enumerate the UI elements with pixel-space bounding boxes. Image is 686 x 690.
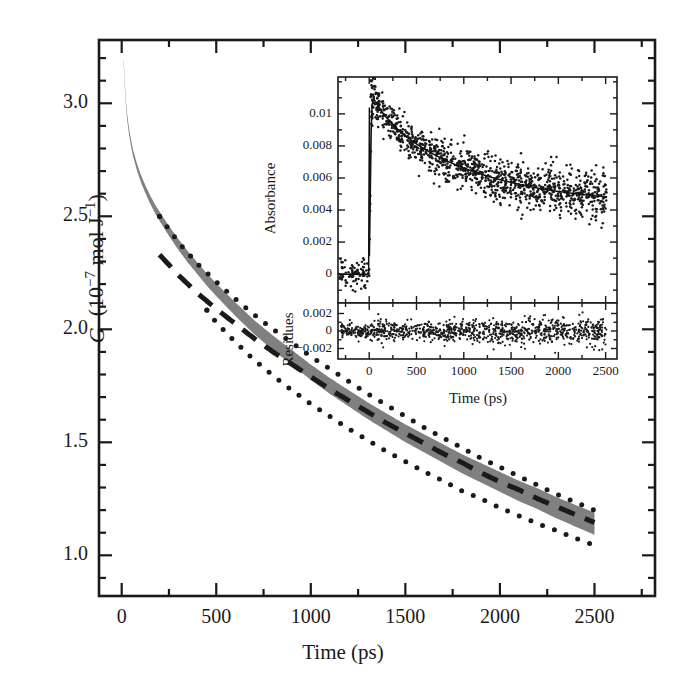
- inset-absorbance-tick-label: 0: [262, 265, 332, 281]
- main-x-tick-label: 2500: [549, 605, 639, 628]
- main-x-tick-label: 0: [77, 605, 167, 628]
- main-x-axis-label: Time (ps): [0, 640, 686, 665]
- main-x-tick-label: 500: [171, 605, 261, 628]
- inset-absorbance-tick-label: 0.01: [262, 105, 332, 121]
- main-y-tick-label: 1.5: [26, 429, 88, 452]
- inset-absorbance-tick-label: 0.008: [262, 137, 332, 153]
- inset-residues-tick-label: 0.002: [262, 305, 332, 321]
- inset-residues-tick-label: −0.002: [262, 340, 332, 356]
- inset-absorbance-tick-label: 0.002: [262, 233, 332, 249]
- main-y-tick-label: 1.0: [26, 542, 88, 565]
- main-x-tick-label: 2000: [455, 605, 545, 628]
- inset-residues-tick-label: 0: [262, 322, 332, 338]
- inset-absorbance-tick-label: 0.004: [262, 201, 332, 217]
- main-y-tick-label: 3.0: [26, 90, 88, 113]
- main-y-tick-label: 2.0: [26, 316, 88, 339]
- main-x-tick-label: 1500: [360, 605, 450, 628]
- main-y-tick-label: 2.5: [26, 203, 88, 226]
- inset-x-tick-label: 2500: [576, 363, 636, 379]
- inset-x-axis-label: Time (ps): [398, 390, 558, 407]
- figure-root: G (10−7 mol J−1) Time (ps) 1.01.52.02.53…: [0, 0, 686, 690]
- main-x-tick-label: 1000: [266, 605, 356, 628]
- inset-absorbance-tick-label: 0.006: [262, 169, 332, 185]
